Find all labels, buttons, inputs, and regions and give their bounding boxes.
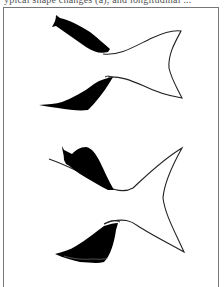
upper-fin-ventral: [39, 77, 113, 110]
upper-tail: [39, 15, 182, 110]
upper-tail-outline: [103, 31, 182, 98]
lower-tail: [49, 146, 184, 263]
upper-fin-dorsal: [52, 15, 110, 53]
lower-fin-ventral: [55, 223, 118, 263]
